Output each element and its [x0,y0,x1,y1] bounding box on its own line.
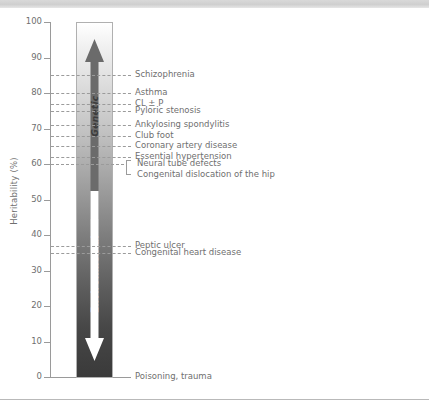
annotation-leader-line [51,164,124,165]
annotation-leader-line [51,136,131,137]
annotation-label: Asthma [135,87,167,97]
y-axis-tick [44,164,51,165]
annotation-leader-line [51,253,131,254]
y-axis-tick [44,93,51,94]
y-axis-tick [44,271,51,272]
y-axis-tick-label: 50 [18,194,42,204]
y-axis-tick [44,22,51,23]
y-axis-tick-label: 90 [18,52,42,62]
annotation-label: Coronary artery disease [135,140,237,150]
y-axis-tick [44,342,51,343]
heritability-figure: Heritability (%) 1009080706050403020100 … [0,8,429,399]
annotation-label: Schizophrenia [135,69,195,79]
y-axis-tick-label: 80 [18,87,42,97]
bar-label-genetic: Genetic [90,86,100,146]
y-axis-tick-label: 70 [18,123,42,133]
y-axis-tick-label: 40 [18,229,42,239]
annotation-label: Club foot [135,130,174,140]
bar-label-environmental: Environmental [90,228,100,320]
annotation-label: Neural tube defects [137,158,221,168]
annotation-leader-line [51,125,131,126]
annotation-label: Congenital heart disease [135,247,241,257]
chart-plot-area: Heritability (%) 1009080706050403020100 … [0,8,429,399]
y-axis-tick-label: 60 [18,158,42,168]
annotation-leader-line [51,157,131,158]
y-axis-tick [44,306,51,307]
annotation-leader-line [51,104,131,105]
annotation-leader-line [51,246,131,247]
y-axis-tick-label: 0 [18,371,42,381]
y-axis-tick [44,377,51,378]
y-axis-tick-label: 30 [18,265,42,275]
y-axis-tick [44,235,51,236]
annotation-bracket [126,160,131,175]
annotation-label: Pyloric stenosis [135,105,201,115]
page-header-band [0,0,429,8]
y-axis-tick-label: 10 [18,336,42,346]
annotation-leader-line [51,146,131,147]
annotation-leader-line [51,75,131,76]
y-axis-tick-label: 100 [18,16,42,26]
annotation-label: Congenital dislocation of the hip [137,169,275,179]
annotation-leader-line [51,93,131,94]
annotation-leader-line [113,377,131,378]
y-axis-tick [44,58,51,59]
page-footer-rule [0,399,429,400]
y-axis-tick [44,129,51,130]
y-axis-tick-label: 20 [18,300,42,310]
annotation-label: Ankylosing spondylitis [135,119,229,129]
annotation-leader-line [51,111,131,112]
annotation-label: Poisoning, trauma [135,371,212,381]
y-axis-tick [44,200,51,201]
